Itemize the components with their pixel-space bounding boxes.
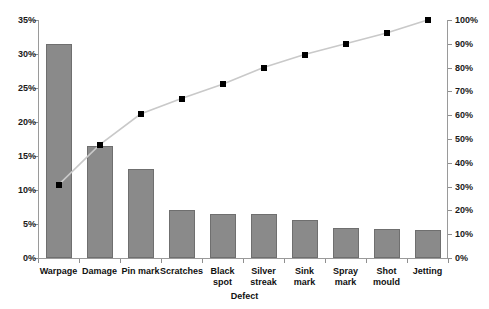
cumulative-marker bbox=[138, 111, 144, 117]
right-tick bbox=[448, 115, 452, 116]
right-tick-label: 10% bbox=[455, 230, 473, 239]
left-tick-label: 0% bbox=[23, 254, 36, 263]
bar bbox=[210, 214, 236, 258]
right-tick-label: 80% bbox=[455, 64, 473, 73]
left-tick-label: 30% bbox=[18, 50, 36, 59]
bar bbox=[87, 146, 113, 258]
right-tick-label: 0% bbox=[455, 254, 468, 263]
pareto-chart: 0%5%10%15%20%25%30%35% 0%10%20%30%40%50%… bbox=[0, 0, 489, 309]
category-tick bbox=[38, 259, 39, 263]
plot-area bbox=[38, 20, 448, 258]
right-tick bbox=[448, 210, 452, 211]
cumulative-marker bbox=[384, 30, 390, 36]
right-tick-label: 90% bbox=[455, 40, 473, 49]
category-tick bbox=[243, 259, 244, 263]
cumulative-marker bbox=[220, 81, 226, 87]
left-tick-label: 25% bbox=[18, 84, 36, 93]
left-tick-label: 20% bbox=[18, 118, 36, 127]
bar bbox=[333, 228, 359, 258]
right-tick bbox=[448, 44, 452, 45]
cumulative-marker bbox=[56, 182, 62, 188]
bar bbox=[251, 214, 277, 258]
category-tick bbox=[79, 259, 80, 263]
bar bbox=[128, 169, 154, 258]
category-tick bbox=[366, 259, 367, 263]
right-tick bbox=[448, 68, 452, 69]
chart-title-clipped bbox=[0, 0, 489, 6]
x-axis-title: Defect bbox=[0, 291, 489, 301]
left-tick-label: 35% bbox=[18, 16, 36, 25]
right-tick bbox=[448, 91, 452, 92]
right-tick-label: 20% bbox=[455, 206, 473, 215]
left-tick-label: 10% bbox=[18, 186, 36, 195]
left-tick-label: 5% bbox=[23, 220, 36, 229]
right-tick-label: 40% bbox=[455, 159, 473, 168]
right-tick-label: 60% bbox=[455, 111, 473, 120]
cumulative-marker bbox=[179, 96, 185, 102]
right-tick-label: 100% bbox=[455, 16, 478, 25]
bar bbox=[374, 229, 400, 258]
right-tick bbox=[448, 139, 452, 140]
right-tick bbox=[448, 187, 452, 188]
category-tick bbox=[448, 259, 449, 263]
bar bbox=[46, 44, 72, 258]
right-tick bbox=[448, 20, 452, 21]
bar bbox=[415, 230, 441, 258]
right-tick-label: 30% bbox=[455, 183, 473, 192]
right-tick-label: 50% bbox=[455, 135, 473, 144]
category-tick bbox=[120, 259, 121, 263]
left-tick-label: 15% bbox=[18, 152, 36, 161]
category-tick bbox=[325, 259, 326, 263]
category-tick bbox=[161, 259, 162, 263]
cumulative-marker bbox=[302, 52, 308, 58]
bar bbox=[292, 220, 318, 258]
right-tick bbox=[448, 234, 452, 235]
category-label: Jetting bbox=[403, 266, 452, 277]
cumulative-marker bbox=[425, 17, 431, 23]
category-tick bbox=[202, 259, 203, 263]
right-tick-label: 70% bbox=[455, 87, 473, 96]
cumulative-marker bbox=[343, 41, 349, 47]
category-tick bbox=[407, 259, 408, 263]
cumulative-marker bbox=[261, 65, 267, 71]
right-tick bbox=[448, 163, 452, 164]
cumulative-marker bbox=[97, 142, 103, 148]
bar bbox=[169, 210, 195, 258]
category-tick bbox=[284, 259, 285, 263]
